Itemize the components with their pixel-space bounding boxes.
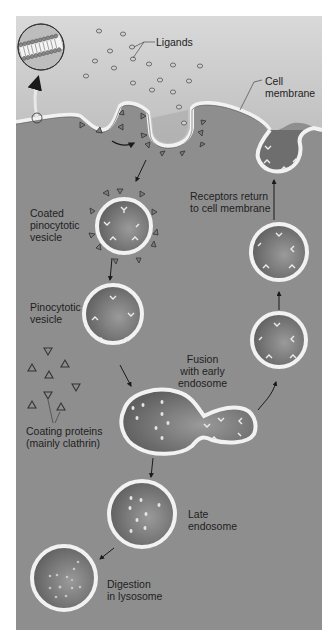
- label-coated-vesicle: Coated pinocytotic vesicle: [30, 207, 80, 243]
- label-late-endosome: Late endosome: [188, 508, 237, 532]
- label-digestion: Digestion in lysosome: [107, 578, 162, 602]
- recycling-vesicle-lower: [252, 313, 306, 367]
- pinocytotic-vesicle: [84, 285, 142, 343]
- label-fusion: Fusion with early endosome: [178, 353, 227, 389]
- late-endosome: [109, 481, 175, 547]
- label-ligands: Ligands: [156, 36, 193, 48]
- label-coating-proteins: Coating proteins (mainly clathrin): [26, 425, 102, 449]
- label-receptors-return: Receptors return to cell membrane: [190, 190, 271, 214]
- lysosome: [32, 546, 96, 610]
- recycling-vesicle-upper: [251, 224, 307, 280]
- label-cell-membrane: Cell membrane: [265, 75, 315, 99]
- label-pinocytotic-vesicle: Pinocytotic vesicle: [30, 301, 81, 325]
